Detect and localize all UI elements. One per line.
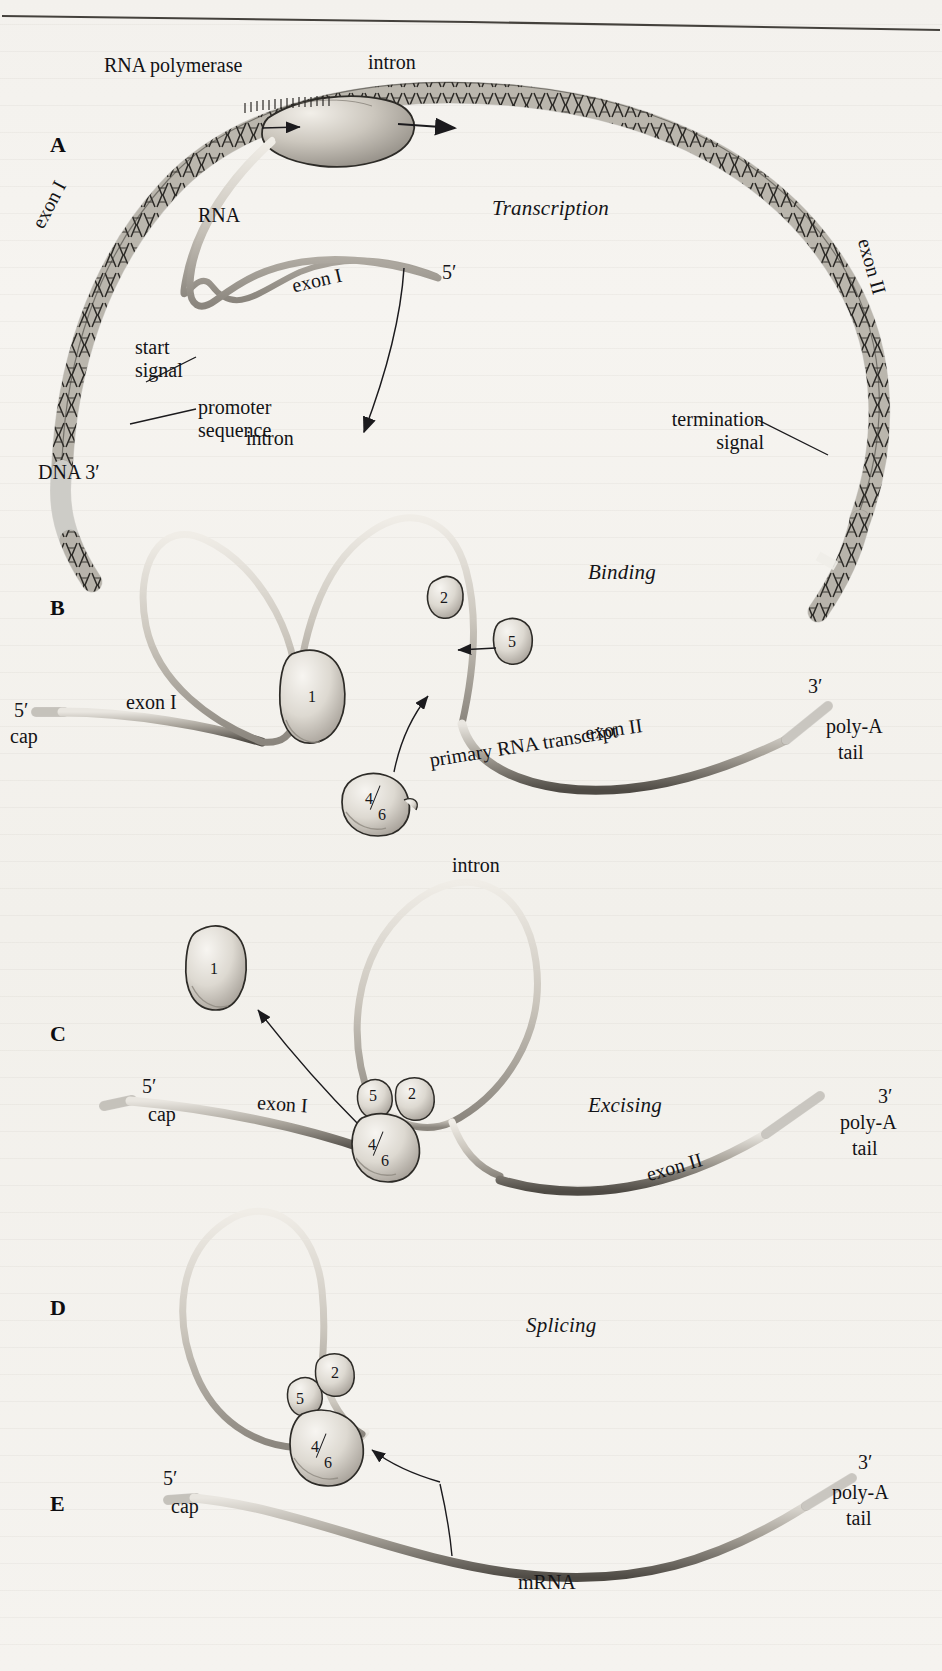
label-termination-signal: termination signal <box>634 408 764 454</box>
label-rna-polymerase: RNA polymerase <box>104 55 242 77</box>
particle-label-5-d: 5 <box>296 1390 304 1407</box>
figure-canvas: A RNA polymerase intron Transcription ex… <box>0 0 942 1671</box>
particle-label-5-b: 5 <box>508 633 516 650</box>
label-stage-binding: Binding <box>588 561 656 584</box>
label-start-signal-line2: signal <box>135 359 183 381</box>
label-poly-a-b: poly-A <box>826 716 883 738</box>
arrow-a-to-b <box>364 268 404 432</box>
particle-label-2-b: 2 <box>440 589 448 606</box>
particle-label-2-d: 2 <box>331 1364 339 1381</box>
particle-label-5-c: 5 <box>369 1087 377 1104</box>
label-3prime-e: 3′ <box>858 1452 872 1474</box>
panel-letter-e: E <box>50 1492 65 1516</box>
label-cap-b: cap <box>10 726 38 748</box>
particle-label-2-c: 2 <box>408 1085 416 1102</box>
panel-letter-a: A <box>50 133 66 157</box>
leader-promoter <box>130 409 196 424</box>
label-3prime-b: 3′ <box>808 676 822 698</box>
label-exon-i-b: exon I <box>126 692 177 714</box>
header-rule <box>2 16 940 30</box>
label-5prime-c: 5′ <box>142 1076 156 1098</box>
label-mrna: mRNA <box>518 1572 576 1594</box>
label-intron-a: intron <box>368 52 416 74</box>
label-poly-a-e: poly-A <box>832 1482 889 1504</box>
arrow-spliceosome-release-d <box>372 1450 440 1482</box>
label-5prime-e: 5′ <box>163 1468 177 1490</box>
label-5prime-b: 5′ <box>14 700 28 722</box>
arrow-to-mrna-e <box>440 1484 452 1556</box>
panel-letter-d: D <box>50 1296 66 1320</box>
rna-polymerase-blob <box>245 96 414 167</box>
figure-svg <box>0 0 942 1671</box>
label-intron-c: intron <box>452 855 500 877</box>
label-stage-excising: Excising <box>588 1094 662 1117</box>
label-tail-e: tail <box>846 1508 872 1530</box>
leader-termination-signal <box>758 420 828 455</box>
label-rna-a: RNA <box>198 205 240 227</box>
particle-label-1-b: 1 <box>308 688 316 705</box>
label-exon-i-c: exon I <box>256 1092 308 1117</box>
label-start-signal: start signal <box>135 336 183 382</box>
label-5prime-a: 5′ <box>442 262 456 284</box>
panel-letter-b: B <box>50 596 65 620</box>
label-start-signal-line1: start <box>135 336 169 358</box>
arrow-particle-5-binding-b <box>458 648 496 650</box>
panel-e-mrna <box>168 1478 852 1578</box>
label-cap-e: cap <box>171 1496 199 1518</box>
label-dna-3prime: DNA 3′ <box>38 462 100 484</box>
label-tail-c: tail <box>852 1138 878 1160</box>
label-stage-splicing: Splicing <box>526 1314 596 1337</box>
label-termination-line2: signal <box>716 431 764 453</box>
label-promoter-line1: promoter <box>198 396 271 418</box>
arrow-particle-46-binding-b <box>394 696 428 772</box>
label-tail-b: tail <box>838 742 864 764</box>
label-termination-line1: termination <box>672 408 764 430</box>
label-3prime-c: 3′ <box>878 1086 892 1108</box>
panel-letter-c: C <box>50 1022 66 1046</box>
particle-label-1-c: 1 <box>210 960 218 977</box>
label-intron-b: intron <box>246 428 294 450</box>
label-poly-a-c: poly-A <box>840 1112 897 1134</box>
label-stage-transcription: Transcription <box>492 197 609 220</box>
label-cap-c: cap <box>148 1104 176 1126</box>
